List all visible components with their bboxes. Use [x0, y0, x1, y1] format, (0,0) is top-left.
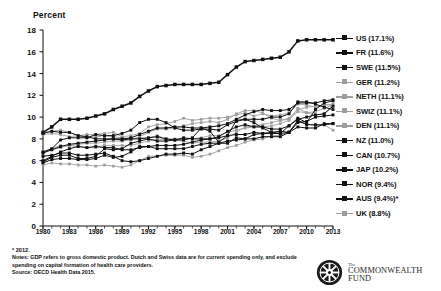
legend-item-den[interactable]: DEN (11.1%) [336, 119, 441, 134]
legend-marker-icon [336, 107, 353, 116]
legend-label: CAN (10.7%) [356, 151, 400, 160]
x-tick-1992: 1992 [141, 228, 156, 235]
x-tick-1983: 1983 [62, 228, 77, 235]
legend-item-fr[interactable]: FR (11.6%) [336, 46, 441, 61]
legend-marker-icon [336, 194, 353, 203]
legend-item-nz[interactable]: NZ (11.0%) [336, 133, 441, 148]
legend-marker-icon [336, 151, 353, 160]
legend-label: SWE (11.5%) [356, 63, 400, 72]
x-tick-2004: 2004 [247, 228, 262, 235]
legend-marker-icon [336, 63, 353, 72]
logo-fund: FUND [348, 275, 422, 283]
footnotes: * 2012. Notes: GDP refers to gross domes… [12, 247, 312, 276]
legend-marker-icon [336, 165, 353, 174]
x-tick-2010: 2010 [299, 228, 314, 235]
legend-label: NETH (11.1%) [356, 92, 404, 101]
legend-marker-icon [336, 209, 353, 218]
footnote-source: Source: OECD Health Data 2015. [12, 269, 312, 276]
x-tick-1995: 1995 [167, 228, 182, 235]
legend-item-neth[interactable]: NETH (11.1%) [336, 89, 441, 104]
legend-item-swiz[interactable]: SWIZ (11.1%) [336, 104, 441, 119]
y-axis-tick-labels: 024681012141618 [0, 30, 43, 226]
legend-item-us[interactable]: US (17.1%) [336, 31, 441, 46]
legend-label: SWIZ (11.1%) [356, 107, 402, 116]
legend-label: AUS (9.4%)* [356, 194, 398, 203]
legend-label: GER (11.2%) [356, 78, 400, 87]
legend-item-uk[interactable]: UK (8.8%) [336, 206, 441, 221]
y-tick-6: 6 [32, 156, 36, 165]
x-tick-1998: 1998 [194, 228, 209, 235]
legend-marker-icon [336, 180, 353, 189]
x-tick-2013: 2013 [326, 228, 341, 235]
notes-label: Notes: [12, 254, 29, 260]
legend-item-can[interactable]: CAN (10.7%) [336, 148, 441, 163]
footnote-asterisk: * 2012. [12, 247, 312, 254]
legend-label: NOR (9.4%) [356, 180, 396, 189]
legend-label: FR (11.6%) [356, 48, 393, 57]
legend-marker-icon [336, 136, 353, 145]
y-tick-4: 4 [32, 178, 36, 187]
y-tick-10: 10 [27, 113, 36, 122]
x-tick-2001: 2001 [220, 228, 235, 235]
commonwealth-fund-logo: The COMMONWEALTH FUND [316, 259, 422, 286]
legend-marker-icon [336, 78, 353, 87]
legend-marker-icon [336, 92, 353, 101]
y-tick-12: 12 [27, 91, 36, 100]
legend-label: UK (8.8%) [356, 209, 391, 218]
legend-item-jap[interactable]: JAP (10.2%) [336, 162, 441, 177]
legend-item-nor[interactable]: NOR (9.4%) [336, 177, 441, 192]
y-tick-14: 14 [27, 69, 36, 78]
legend-marker-icon [336, 34, 353, 43]
y-tick-18: 18 [27, 26, 36, 35]
plot-area [43, 30, 333, 226]
series-fr [42, 98, 335, 154]
y-tick-16: 16 [27, 47, 36, 56]
legend-label: NZ (11.0%) [356, 136, 393, 145]
logo-wordmark: The COMMONWEALTH FUND [348, 262, 422, 284]
chart-figure: Percent 024681012141618 1980198319861989… [0, 0, 441, 291]
compass-wheel-icon [316, 259, 343, 286]
x-axis-tick-labels: 1980198319861989199219951998200120042007… [43, 228, 343, 242]
legend-marker-icon [336, 48, 353, 57]
footnote-notes-line-1: Notes: GDP refers to gross domestic prod… [12, 254, 312, 261]
legend-item-aus[interactable]: AUS (9.4%)* [336, 192, 441, 207]
x-tick-1980: 1980 [36, 228, 51, 235]
legend: US (17.1%)FR (11.6%)SWE (11.5%)GER (11.2… [336, 31, 441, 221]
notes-text-1: GDP refers to gross domestic product. Du… [30, 254, 296, 260]
x-tick-1989: 1989 [115, 228, 130, 235]
legend-item-ger[interactable]: GER (11.2%) [336, 75, 441, 90]
legend-marker-icon [336, 121, 353, 130]
legend-label: JAP (10.2%) [356, 165, 398, 174]
legend-item-swe[interactable]: SWE (11.5%) [336, 60, 441, 75]
y-axis-title: Percent [33, 10, 66, 20]
x-tick-2007: 2007 [273, 228, 288, 235]
series-canvas [43, 30, 333, 226]
y-tick-2: 2 [32, 200, 36, 209]
legend-label: US (17.1%) [356, 34, 394, 43]
footnote-notes-line-2: spending on capital formation of health … [12, 262, 312, 269]
y-tick-8: 8 [32, 134, 36, 143]
x-tick-1986: 1986 [88, 228, 103, 235]
legend-label: DEN (11.1%) [356, 121, 399, 130]
